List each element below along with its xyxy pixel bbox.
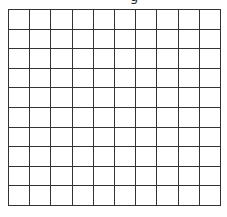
grid-cell [72,166,93,186]
grid-cell [8,9,29,29]
grid-cell [135,9,156,29]
grid-cell [199,68,220,88]
grid-cell [50,185,71,205]
grid-cell [29,29,50,49]
grid-cell [72,29,93,49]
grid-cell [178,127,199,147]
grid-cell [50,48,71,68]
grid-cell [156,166,177,186]
grid-cell [114,166,135,186]
grid-cell [156,146,177,166]
grid-cell [178,9,199,29]
grid-cell [8,48,29,68]
grid-cell [156,107,177,127]
grid-cell [178,68,199,88]
grid-cell [135,29,156,49]
grid-cell [199,29,220,49]
grid-cell [8,29,29,49]
grid-cell [8,185,29,205]
grid-cell [114,146,135,166]
grid-cell [199,185,220,205]
grid-cell [135,146,156,166]
grid-cell [156,9,177,29]
grid-cell [29,127,50,147]
grid-cell [199,146,220,166]
grid-cell [114,29,135,49]
empty-grid [8,9,221,206]
grid-cell [50,166,71,186]
grid-cell [8,68,29,88]
grid-cell [156,127,177,147]
grid-cell [29,146,50,166]
grid-cell [93,127,114,147]
grid-cell [135,68,156,88]
grid-cell [114,185,135,205]
grid-cell [8,146,29,166]
grid-cell [93,166,114,186]
grid-cell [50,9,71,29]
grid-cell [156,87,177,107]
grid-cell [72,146,93,166]
grid-cell [8,127,29,147]
grid-cell [178,48,199,68]
grid-cell [178,185,199,205]
grid-cell [135,127,156,147]
grid-cell [178,29,199,49]
grid-cell [72,48,93,68]
grid-cell [178,107,199,127]
grid-cell [29,48,50,68]
clipped-title-fragment: g [130,0,138,3]
grid-cell [178,166,199,186]
grid-cell [135,87,156,107]
grid-cell [135,107,156,127]
grid-cell [199,166,220,186]
grid-cell [50,146,71,166]
grid-cell [29,68,50,88]
grid-cell [8,166,29,186]
grid-cell [8,107,29,127]
grid-cell [72,107,93,127]
grid-cell [135,185,156,205]
grid-cell [178,146,199,166]
grid-cell [8,87,29,107]
grid-cell [29,107,50,127]
grid-cell [114,107,135,127]
grid-cell [178,87,199,107]
grid-cell [156,185,177,205]
grid-cell [72,185,93,205]
grid-cell [50,68,71,88]
grid-cell [50,127,71,147]
grid-cell [93,9,114,29]
grid-cell [72,127,93,147]
grid-cell [199,127,220,147]
grid-cell [114,9,135,29]
grid-cell [50,107,71,127]
grid-cell [135,48,156,68]
grid-cell [29,9,50,29]
grid-cell [199,107,220,127]
grid-cell [156,29,177,49]
grid-cell [114,87,135,107]
grid-cell [156,68,177,88]
grid-cell [50,87,71,107]
grid-cell [114,127,135,147]
grid-cell [29,185,50,205]
grid-cell [93,107,114,127]
grid-cell [199,87,220,107]
grid-cell [93,48,114,68]
grid-cell [72,68,93,88]
grid-cell [93,185,114,205]
grid-cell [135,166,156,186]
grid-cell [199,48,220,68]
grid-cell [93,146,114,166]
grid-cell [156,48,177,68]
grid-cell [93,29,114,49]
grid-cell [93,87,114,107]
grid-cell [72,87,93,107]
grid-cell [29,87,50,107]
grid-cell [199,9,220,29]
grid-cell [114,48,135,68]
grid-cell [50,29,71,49]
grid-cell [114,68,135,88]
grid-cell [29,166,50,186]
